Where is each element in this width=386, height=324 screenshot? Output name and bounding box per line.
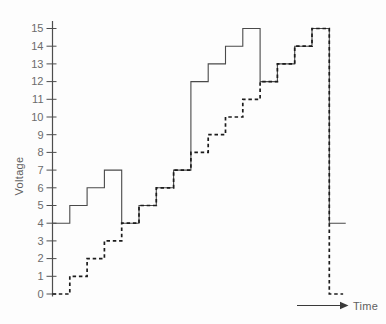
time-arrow-head bbox=[340, 302, 349, 309]
x-axis-title: Time bbox=[353, 300, 378, 312]
y-tick-label: 4 bbox=[37, 217, 43, 229]
waveforms bbox=[53, 29, 346, 295]
y-tick-label: 8 bbox=[37, 146, 43, 158]
y-tick-label: 7 bbox=[37, 164, 43, 176]
y-tick-label: 14 bbox=[31, 40, 43, 52]
y-tick-label: 10 bbox=[31, 111, 43, 123]
y-tick-label: 12 bbox=[31, 75, 43, 87]
y-tick-label: 9 bbox=[37, 129, 43, 141]
y-axis-title: Voltage bbox=[13, 157, 25, 196]
y-tick-label: 15 bbox=[31, 22, 43, 34]
solid-waveform bbox=[53, 29, 346, 224]
y-tick-label: 5 bbox=[37, 199, 43, 211]
y-tick-label: 11 bbox=[32, 93, 43, 105]
y-tick-label: 0 bbox=[37, 288, 43, 300]
y-tick-label: 1 bbox=[37, 270, 43, 282]
time-axis-arrow: Time bbox=[297, 300, 378, 312]
y-tick-label: 6 bbox=[37, 182, 43, 194]
dashed-staircase bbox=[53, 29, 344, 295]
y-tick-label: 2 bbox=[37, 252, 43, 264]
voltage-time-step-chart: 0123456789101112131415 Voltage Time bbox=[0, 0, 386, 324]
chart-canvas: 0123456789101112131415 Voltage Time bbox=[0, 0, 386, 324]
y-tick-label: 13 bbox=[31, 58, 43, 70]
y-tick-label: 3 bbox=[37, 235, 43, 247]
